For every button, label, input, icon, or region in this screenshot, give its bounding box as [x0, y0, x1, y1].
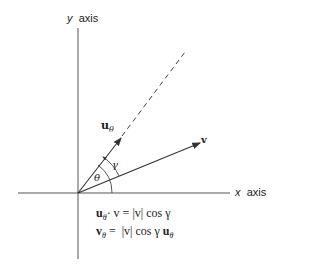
theta-arc [98, 165, 112, 193]
v-label: v [201, 134, 207, 145]
u-theta-label: uθ [101, 119, 114, 134]
gamma-angle-label: γ [112, 159, 118, 170]
u-theta-dashed-extension [122, 52, 185, 136]
y-axis-label: y axis [67, 12, 98, 24]
theta-angle-label: θ [94, 172, 100, 183]
equation-projection: vθ = |v| cos γ uθ [96, 224, 173, 240]
v-vector [78, 143, 200, 193]
x-axis-label: x axis [235, 186, 266, 198]
equation-dot-product: uθ· v = |v| cos γ [96, 206, 171, 222]
